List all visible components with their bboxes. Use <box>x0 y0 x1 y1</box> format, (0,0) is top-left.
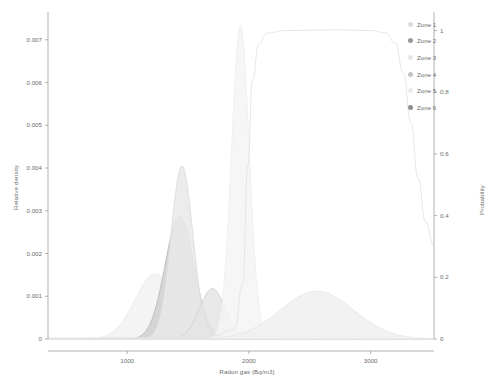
x-axis-title: Radon gas (Bq/m3) <box>0 368 494 375</box>
legend-item-zone-1[interactable]: Zone 1 <box>408 16 470 33</box>
legend-swatch-icon <box>408 72 413 77</box>
density-chart-figure: Relative density Probability Radon gas (… <box>0 0 494 387</box>
legend-swatch-icon <box>408 38 413 43</box>
legend-swatch-icon <box>408 105 413 110</box>
y-ticklabel-left: 0.004 <box>0 164 42 171</box>
y-ticklabel-left: 0.007 <box>0 36 42 43</box>
x-ticklabel: 3000 <box>351 357 391 364</box>
y-ticklabel-right: 0.4 <box>440 212 449 219</box>
y-ticklabel-right: 0 <box>440 335 443 342</box>
legend-item-zone-6[interactable]: Zone 6 <box>408 99 470 116</box>
x-ticklabel: 1000 <box>107 357 147 364</box>
legend-label: Zone 6 <box>417 104 436 111</box>
y-ticklabel-right: 0.6 <box>440 150 449 157</box>
legend-label: Zone 4 <box>417 71 436 78</box>
legend-swatch-icon <box>408 55 413 60</box>
y-ticklabel-left: 0.005 <box>0 121 42 128</box>
legend: Zone 1Zone 2Zone 3Zone 4Zone 5Zone 6 <box>408 16 470 116</box>
legend-label: Zone 2 <box>417 37 436 44</box>
y-ticklabel-left: 0.001 <box>0 292 42 299</box>
density-curve-zone-5 <box>48 26 434 339</box>
y-ticklabel-left: 0.002 <box>0 250 42 257</box>
y-ticklabel-right: 0.2 <box>440 273 449 280</box>
curves-layer <box>48 26 434 339</box>
y-ticklabel-left: 0.003 <box>0 207 42 214</box>
y-ticklabel-left: 0.006 <box>0 79 42 86</box>
legend-label: Zone 3 <box>417 54 436 61</box>
legend-item-zone-4[interactable]: Zone 4 <box>408 66 470 83</box>
x-ticklabel: 2000 <box>229 357 269 364</box>
y-axis-right-title: Probability <box>478 185 485 215</box>
legend-swatch-icon <box>408 88 413 93</box>
legend-item-zone-2[interactable]: Zone 2 <box>408 33 470 50</box>
legend-label: Zone 5 <box>417 87 436 94</box>
y-axis-left-title: Relative density <box>12 165 19 210</box>
y-ticklabel-left: 0 <box>0 335 42 342</box>
legend-swatch-icon <box>408 22 413 27</box>
legend-item-zone-5[interactable]: Zone 5 <box>408 82 470 99</box>
legend-label: Zone 1 <box>417 21 436 28</box>
legend-item-zone-3[interactable]: Zone 3 <box>408 49 470 66</box>
